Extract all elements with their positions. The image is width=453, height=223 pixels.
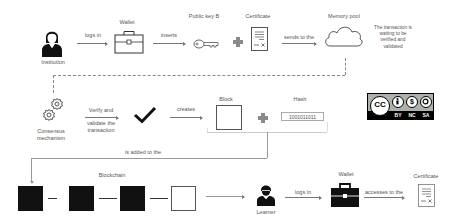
learner-person-icon: [256, 182, 276, 206]
added-connector-arrowhead: [30, 181, 34, 184]
added-connector-to-chain: [31, 158, 32, 182]
certificate-icon-1: [251, 27, 268, 51]
cc-term-nc: NC: [405, 111, 419, 119]
cloud-icon: [324, 24, 364, 48]
hash-label: Hash: [288, 96, 312, 103]
wallet-filled-icon: [331, 183, 359, 207]
memory-pool-label: Memory pool: [322, 13, 366, 20]
plus-icon-1: [233, 37, 243, 47]
block-label: Block: [212, 96, 240, 103]
learner-label: Learner: [252, 209, 280, 216]
added-connector-horizontal: [31, 158, 267, 159]
by-attribution-icon: [392, 96, 404, 108]
cc-license-badge: CC $ BY NC SA: [367, 93, 434, 120]
dashed-connector-horizontal: [53, 75, 345, 76]
chain-block-4: [171, 186, 196, 211]
key-icon: [193, 36, 219, 48]
public-key-label: Public key B: [186, 13, 222, 20]
added-connector-down: [267, 132, 268, 158]
sa-sharealike-icon: [420, 96, 432, 108]
logs-in-label-2: logs in: [288, 189, 318, 196]
verify-arrow: [85, 117, 118, 118]
certificate-icon-2: [418, 184, 435, 207]
chain-to-learner-arrow: [206, 196, 244, 197]
creates-label: creates: [170, 106, 202, 113]
chain-block-3: [120, 186, 145, 211]
chain-link-3: [150, 198, 168, 199]
validate-label: validate the transaction: [82, 120, 120, 133]
chain-block-1: [18, 186, 43, 211]
cc-term-by: BY: [391, 111, 405, 119]
consensus-label: Consensus mechanism: [28, 128, 74, 141]
creates-arrow: [170, 117, 202, 118]
inserts-label: inserts: [154, 32, 184, 39]
logs-in-label-1: logs in: [78, 32, 108, 39]
blockchain-label: Blockchain: [92, 172, 132, 179]
memory-pool-note: The transaction is waiting to be verifie…: [368, 25, 418, 50]
hash-value-box: 1001011011: [281, 112, 324, 121]
chain-link-2: [99, 198, 117, 199]
added-to-label: is added to the: [118, 149, 168, 156]
accesses-label: accesses to the: [363, 189, 405, 196]
sends-to-label: sends to the: [281, 34, 317, 41]
inserts-arrow: [153, 43, 185, 44]
verify-label: Verify and: [84, 107, 118, 114]
bracket-right: [327, 122, 328, 132]
certificate-label-2: Certificate: [411, 173, 441, 180]
gears-icon: [40, 97, 66, 123]
wallet-outline-icon: [114, 30, 144, 54]
chain-link-1: [48, 198, 57, 199]
accesses-arrow: [364, 197, 404, 198]
cc-logo-icon: CC: [370, 96, 390, 116]
cc-term-sa: SA: [419, 111, 433, 119]
logs-in-arrow-2: [285, 197, 321, 198]
nc-noncommercial-icon: $: [406, 96, 418, 108]
chain-block-2: [69, 186, 94, 211]
dashed-connector-down-2: [53, 75, 54, 93]
wallet-label-2: Wallet: [331, 171, 361, 178]
institution-person-icon: [40, 27, 64, 57]
wallet-label-1: Wallet: [112, 19, 142, 26]
logs-in-arrow-1: [77, 43, 107, 44]
new-block: [216, 105, 242, 130]
institution-label: Institution: [33, 59, 73, 66]
certificate-label-1: Certificate: [243, 13, 273, 20]
checkmark-icon: [133, 106, 157, 124]
dashed-connector-down-1: [345, 58, 346, 75]
plus-icon-2: [258, 113, 268, 123]
sends-to-arrow: [282, 43, 316, 44]
